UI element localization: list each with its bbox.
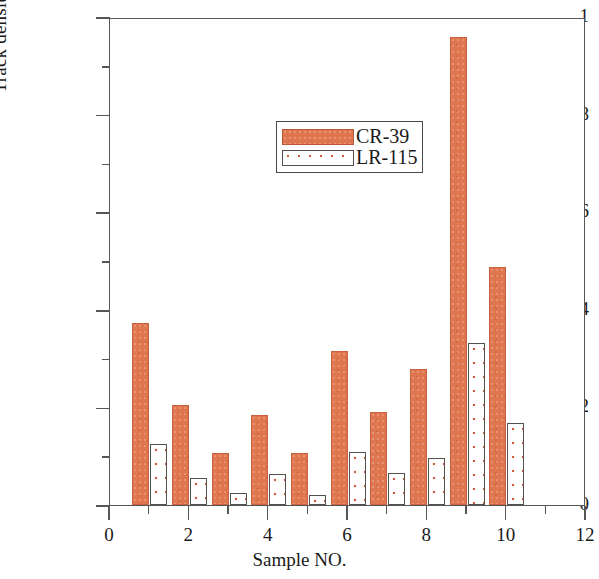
y-axis-label: Track density/(cm2· g · sec) bbox=[0, 0, 11, 150]
x-tick-minor bbox=[465, 506, 467, 514]
x-tick-major bbox=[346, 506, 348, 520]
x-tick-minor bbox=[227, 506, 229, 514]
legend-label-lr115: LR-115 bbox=[354, 146, 417, 169]
bar-cr-39-sample-3 bbox=[212, 453, 229, 505]
legend-item-cr39: CR-39 bbox=[282, 126, 417, 147]
x-tick-label: 10 bbox=[476, 524, 536, 546]
x-tick-label: 2 bbox=[158, 524, 218, 546]
x-tick-major bbox=[584, 506, 586, 520]
bar-cr-39-sample-10 bbox=[489, 267, 506, 505]
bar-cr-39-sample-4 bbox=[251, 415, 268, 505]
y-tick-major bbox=[96, 17, 110, 19]
legend: CR-39 LR-115 bbox=[276, 121, 423, 173]
x-tick-major bbox=[108, 506, 110, 520]
bar-lr-115-sample-8 bbox=[428, 458, 445, 505]
y-tick-major bbox=[96, 115, 110, 117]
bar-lr-115-sample-10 bbox=[507, 423, 524, 505]
bar-lr-115-sample-9 bbox=[468, 343, 485, 505]
x-tick-major bbox=[267, 506, 269, 520]
chart-figure: Track density/(cm2· g · sec) Sample NO. … bbox=[0, 0, 599, 579]
x-tick-minor bbox=[545, 506, 547, 514]
legend-swatch-lr115-icon bbox=[282, 150, 354, 166]
x-tick-major bbox=[188, 506, 190, 520]
x-tick-label: 6 bbox=[317, 524, 377, 546]
x-tick-minor bbox=[307, 506, 309, 514]
plot-area: CR-39 LR-115 bbox=[109, 18, 585, 506]
x-tick-label: 12 bbox=[555, 524, 599, 546]
x-tick-major bbox=[505, 506, 507, 520]
bar-lr-115-sample-4 bbox=[269, 474, 286, 505]
x-tick-label: 0 bbox=[79, 524, 139, 546]
y-tick-major bbox=[96, 408, 110, 410]
bar-lr-115-sample-3 bbox=[230, 493, 247, 505]
x-tick-label: 8 bbox=[396, 524, 456, 546]
bar-lr-115-sample-2 bbox=[190, 478, 207, 505]
y-axis-label-prefix: Track density/(cm bbox=[0, 0, 10, 93]
legend-swatch-cr39-icon bbox=[282, 129, 354, 145]
x-tick-minor bbox=[386, 506, 388, 514]
legend-item-lr115: LR-115 bbox=[282, 147, 417, 168]
bar-cr-39-sample-1 bbox=[132, 323, 149, 505]
bar-cr-39-sample-5 bbox=[291, 453, 308, 505]
bar-cr-39-sample-2 bbox=[172, 405, 189, 505]
x-axis-label: Sample NO. bbox=[0, 549, 599, 571]
y-tick-major bbox=[96, 310, 110, 312]
bar-cr-39-sample-7 bbox=[370, 412, 387, 505]
x-tick-minor bbox=[148, 506, 150, 514]
bar-lr-115-sample-5 bbox=[309, 495, 326, 505]
bar-cr-39-sample-8 bbox=[410, 369, 427, 505]
bar-cr-39-sample-6 bbox=[331, 351, 348, 505]
x-tick-label: 4 bbox=[238, 524, 298, 546]
bar-cr-39-sample-9 bbox=[450, 37, 467, 505]
bar-lr-115-sample-7 bbox=[388, 473, 405, 505]
y-tick-major bbox=[96, 212, 110, 214]
bar-lr-115-sample-1 bbox=[150, 444, 167, 505]
bar-lr-115-sample-6 bbox=[349, 452, 366, 505]
x-tick-major bbox=[426, 506, 428, 520]
legend-label-cr39: CR-39 bbox=[354, 125, 409, 148]
